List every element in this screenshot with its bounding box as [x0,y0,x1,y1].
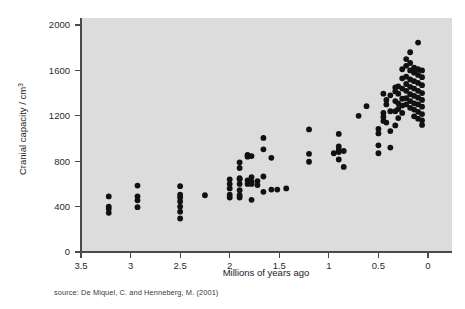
data-point [419,111,425,117]
source-caption: source: De Miquel, C. and Henneberg, M. … [54,288,218,297]
data-point [380,91,386,97]
data-point [376,150,382,156]
x-tick-label: 3 [128,260,133,271]
data-point [227,186,233,192]
data-point [177,204,183,210]
data-point [364,103,370,109]
y-tick-label: 0 [65,246,70,257]
y-tick-label: 2000 [49,19,70,30]
data-point [407,60,413,66]
data-point [341,148,347,154]
data-point [392,123,398,129]
y-tick-label: 400 [54,201,70,212]
data-point [387,108,393,114]
data-point [331,150,337,156]
data-point [237,165,243,171]
y-tick-label: 1200 [49,110,70,121]
data-point [419,74,425,80]
data-point [376,142,382,148]
data-point [336,131,342,137]
data-point [306,159,312,165]
data-point [135,197,141,203]
data-point [306,151,312,157]
data-point [237,187,243,193]
data-point [261,135,267,141]
cranial-capacity-scatter-chart: 0400800120016002000 3.532.521.510.50 Cra… [0,0,465,280]
x-tick-label: 2.5 [174,260,187,271]
data-point [202,192,208,198]
data-point [383,102,389,108]
data-point [356,113,362,119]
data-point [419,68,425,74]
data-point [237,159,243,165]
data-point [227,195,233,201]
data-point [415,40,421,46]
data-point [407,49,413,55]
data-point [395,91,401,97]
data-point [249,181,255,187]
data-point [255,182,261,188]
data-point [268,187,274,193]
data-point [383,120,389,126]
data-point [268,155,274,161]
data-point [419,97,425,103]
data-point [419,90,425,96]
data-point [261,174,267,180]
data-point [341,164,347,170]
data-point [237,195,243,201]
data-point [419,82,425,88]
data-point [249,197,255,203]
data-point [274,187,280,193]
data-point [336,149,342,155]
y-axis-tick-labels: 0400800120016002000 [49,19,70,257]
y-tick-label: 1600 [49,65,70,76]
x-tick-label: 0.5 [372,260,385,271]
y-axis-tick-marks [75,25,81,252]
x-tick-label: 0 [425,260,430,271]
data-point [261,189,267,195]
data-point [376,130,382,136]
data-point [419,122,425,128]
data-point [419,104,425,110]
data-point [177,216,183,222]
data-point [106,193,112,199]
data-point [177,183,183,189]
data-point [177,199,183,205]
data-point [261,146,267,152]
y-axis-title-label: Cranial capacity / cm3 [17,83,28,175]
y-axis-title: Cranial capacity / cm3 [17,83,28,175]
data-point [177,209,183,215]
data-point [387,92,393,98]
data-point [106,210,112,216]
data-point [135,183,141,189]
data-point [336,157,342,163]
data-point [395,115,401,121]
data-point [135,204,141,210]
data-point [237,181,243,187]
data-point [283,186,289,192]
y-tick-label: 800 [54,156,70,167]
data-point [387,128,393,134]
data-point [387,145,393,151]
figure-container: 0400800120016002000 3.532.521.510.50 Cra… [0,0,465,309]
data-point [306,127,312,133]
plot-area-background [81,18,452,252]
data-point [399,110,405,116]
data-point [249,153,255,159]
x-tick-label: 3.5 [74,260,87,271]
x-axis-title-label: Millions of years ago [223,267,310,278]
x-axis-tick-marks [81,252,428,258]
x-tick-label: 1 [326,260,331,271]
y-axis-title-superscript: 3 [17,83,24,87]
